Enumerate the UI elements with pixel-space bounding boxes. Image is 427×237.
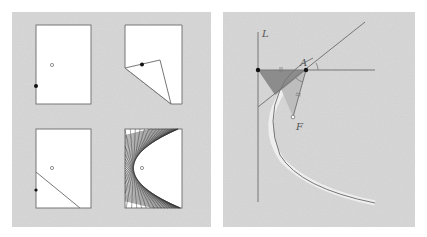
edge-point-icon [34, 188, 37, 191]
directrix-point-icon [256, 68, 260, 72]
sheet-step-4 [125, 129, 182, 208]
label-directrix: L [261, 28, 269, 39]
sheet-step-3 [34, 129, 91, 208]
focus-point-icon [140, 166, 143, 169]
edge-point-icon [140, 63, 144, 67]
right-panel-texture [223, 12, 415, 227]
point-a-icon [304, 68, 308, 72]
focus-point-icon [50, 166, 53, 169]
edge-point-icon [34, 84, 38, 88]
focus-point-icon [50, 63, 53, 66]
diagram-canvas: L A F [0, 0, 427, 237]
label-point-a: A [299, 57, 307, 68]
focus-point-icon [291, 115, 295, 119]
sheet-step-1 [34, 25, 91, 104]
label-focus: F [295, 121, 304, 132]
